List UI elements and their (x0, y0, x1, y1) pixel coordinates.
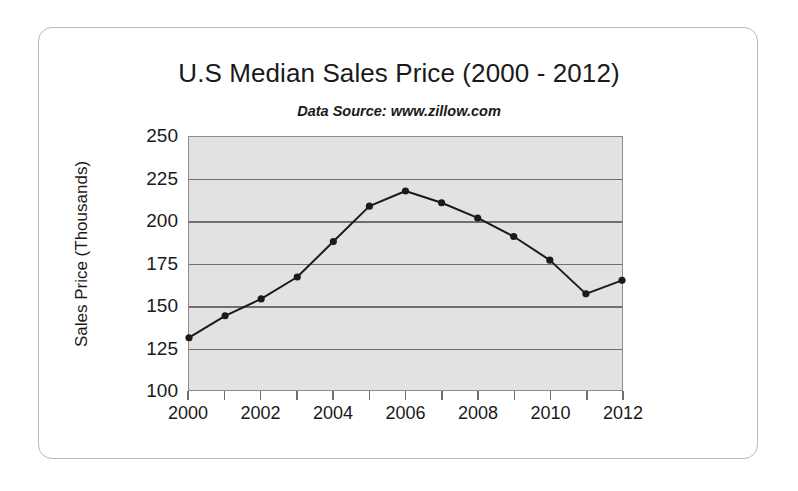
y-axis-tick-label: 175 (106, 253, 178, 275)
plot-area (188, 136, 623, 391)
x-axis-tick-label: 2008 (458, 403, 498, 424)
x-axis-tick-mark (550, 391, 552, 400)
x-axis-tick-mark (260, 391, 262, 400)
x-axis-tick-mark (441, 391, 443, 400)
series-line (189, 191, 622, 338)
x-axis-tick-mark (586, 391, 588, 400)
chart-subtitle-data-source: Data Source: www.zillow.com (0, 103, 798, 119)
data-point-marker (258, 295, 265, 302)
x-axis-tick-label: 2004 (313, 403, 353, 424)
data-point-marker (474, 214, 481, 221)
x-axis-tick-mark (514, 391, 516, 400)
data-point-marker (546, 257, 553, 264)
data-point-marker (402, 187, 409, 194)
chart-title: U.S Median Sales Price (2000 - 2012) (0, 58, 798, 89)
x-axis-tick-label: 2012 (603, 403, 643, 424)
y-axis-tick-label: 250 (106, 125, 178, 147)
x-axis-tick-label: 2010 (530, 403, 570, 424)
data-point-marker (582, 290, 589, 297)
data-point-marker (510, 233, 517, 240)
y-axis-tick-label: 125 (106, 338, 178, 360)
data-point-marker (366, 203, 373, 210)
x-axis-tick-mark (405, 391, 407, 400)
chart-page: U.S Median Sales Price (2000 - 2012) Dat… (0, 0, 798, 491)
data-point-marker (221, 312, 228, 319)
x-axis-tick-mark (296, 391, 298, 400)
data-point-marker (330, 238, 337, 245)
y-axis-tick-label: 150 (106, 295, 178, 317)
x-axis-tick-label: 2000 (168, 403, 208, 424)
x-axis-tick-mark (187, 391, 189, 400)
x-axis-tick-mark (369, 391, 371, 400)
y-axis-title: Sales Price (Thousands) (72, 124, 92, 384)
data-point-marker (438, 199, 445, 206)
data-point-marker (294, 273, 301, 280)
y-axis-tick-label: 100 (106, 380, 178, 402)
x-axis-tick-mark (332, 391, 334, 400)
x-axis-tick-mark (622, 391, 624, 400)
y-axis-tick-label: 225 (106, 168, 178, 190)
x-axis-tick-label: 2002 (240, 403, 280, 424)
data-point-marker (185, 334, 192, 341)
data-point-marker (618, 277, 625, 284)
y-axis-tick-label: 200 (106, 210, 178, 232)
x-axis-tick-labels: 2000200220042006200820102012 (188, 403, 623, 429)
series-line-chart (189, 137, 622, 390)
x-axis-tick-label: 2006 (385, 403, 425, 424)
x-axis-tick-marks (188, 391, 623, 400)
x-axis-tick-mark (477, 391, 479, 400)
y-axis-tick-labels: 250225200175150125100 (100, 136, 178, 391)
x-axis-tick-mark (224, 391, 226, 400)
